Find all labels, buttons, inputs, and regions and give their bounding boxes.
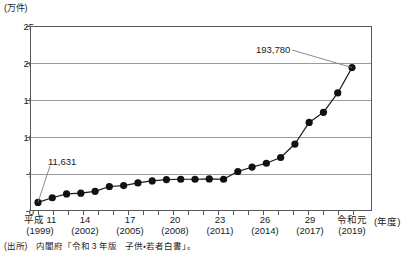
x-tick-label-2011: 23 (2011) (207, 214, 234, 236)
source-note: (出所) 内閣府「令和 3 年版 子供・若者白書」。 (4, 239, 196, 251)
x-tick-mark-8 (158, 211, 159, 215)
gridline-20 (31, 63, 371, 64)
x-axis-unit-label: (年度) (374, 214, 400, 228)
x-tick-mark-17 (293, 211, 294, 215)
x-tick-label-2014: 26 (2014) (251, 214, 278, 236)
x-tick-mark-14 (248, 211, 249, 215)
gridline-15 (31, 100, 371, 101)
x-tick-label-2002: 14 (2002) (71, 214, 98, 236)
gridline-5 (31, 174, 371, 175)
chart-figure: (万件) 0 5 10 15 20 25 平成 11 (1999) 14 (0, 0, 408, 256)
annotation-last-value: 193,780 (256, 44, 290, 55)
x-tick-label-2019: 令和元 (2019) (337, 214, 367, 236)
x-tick-mark-2 (68, 211, 69, 215)
gridline-10 (31, 137, 371, 138)
x-tick-label-2005: 17 (2005) (116, 214, 143, 236)
x-tick-mark-11 (203, 211, 204, 215)
x-tick-label-2008: 20 (2008) (161, 214, 188, 236)
y-axis-unit-label: (万件) (4, 1, 27, 14)
plot-area (30, 26, 372, 211)
x-tick-mark-5 (113, 211, 114, 215)
annotation-first-value: 11,631 (48, 156, 76, 167)
x-tick-label-1999: 平成 11 (1999) (24, 214, 57, 236)
y-tick-mark-0 (26, 211, 30, 212)
x-tick-label-2017: 29 (2017) (296, 214, 323, 236)
